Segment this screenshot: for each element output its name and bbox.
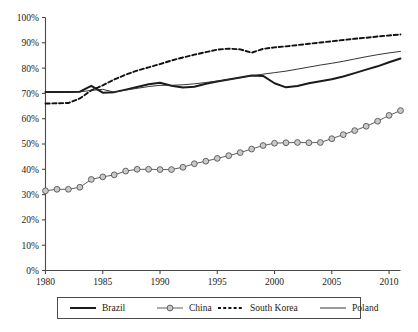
data-point-marker: [249, 146, 255, 152]
data-point-marker: [88, 177, 94, 183]
data-point-marker: [226, 153, 232, 159]
data-point-marker: [283, 140, 289, 146]
legend-label-poland: Poland: [352, 303, 379, 313]
data-point-marker: [329, 136, 335, 142]
data-point-marker: [272, 140, 278, 146]
data-point-marker: [134, 166, 140, 172]
legend-marker-china: [167, 305, 173, 311]
x-tick-label: 1980: [36, 277, 55, 287]
data-point-marker: [306, 140, 312, 146]
x-tick-label: 2005: [322, 277, 341, 287]
data-point-marker: [77, 184, 83, 190]
y-tick-label: 90%: [22, 38, 40, 48]
chart-container: 0%10%20%30%40%50%60%70%80%90%100% 198019…: [0, 0, 418, 332]
y-tick-label: 40%: [22, 165, 40, 175]
y-tick-label: 100%: [17, 13, 39, 23]
data-point-marker: [157, 167, 163, 173]
y-tick-label: 70%: [22, 89, 40, 99]
data-point-marker: [203, 158, 209, 164]
series-layer: [43, 34, 404, 193]
legend-label-south-korea: South Korea: [250, 303, 299, 313]
data-point-marker: [146, 166, 152, 172]
y-tick-label: 10%: [22, 241, 40, 251]
data-point-marker: [386, 113, 392, 119]
data-point-marker: [43, 188, 49, 194]
data-point-marker: [375, 118, 381, 124]
data-point-marker: [352, 128, 358, 134]
data-point-marker: [180, 164, 186, 170]
data-point-marker: [100, 174, 106, 180]
x-tick-label: 2000: [265, 277, 284, 287]
y-tick-label: 80%: [22, 64, 40, 74]
x-axis-ticks: 1980198519901995200020052010: [36, 271, 399, 288]
line-chart: 0%10%20%30%40%50%60%70%80%90%100% 198019…: [0, 0, 418, 332]
y-axis-ticks: 0%10%20%30%40%50%60%70%80%90%100%: [17, 13, 46, 276]
y-tick-label: 50%: [22, 139, 40, 149]
y-tick-label: 0%: [26, 266, 39, 276]
data-point-marker: [191, 161, 197, 167]
chart-legend: BrazilChinaSouth KoreaPoland: [58, 298, 379, 319]
data-point-marker: [237, 150, 243, 156]
y-tick-label: 30%: [22, 190, 40, 200]
legend-label-china: China: [189, 303, 212, 313]
data-point-marker: [317, 140, 323, 146]
x-tick-label: 2010: [380, 277, 399, 287]
data-point-marker: [66, 186, 72, 192]
legend-label-brazil: Brazil: [102, 303, 126, 313]
data-point-marker: [398, 108, 404, 114]
y-tick-label: 60%: [22, 114, 40, 124]
series-line-poland: [46, 51, 401, 92]
data-point-marker: [54, 186, 60, 192]
data-point-marker: [295, 140, 301, 146]
y-tick-label: 20%: [22, 215, 40, 225]
series-line-china: [46, 111, 401, 191]
data-point-marker: [363, 123, 369, 129]
data-point-marker: [169, 167, 175, 173]
x-tick-label: 1985: [93, 277, 112, 287]
data-point-marker: [260, 143, 266, 149]
data-point-marker: [111, 172, 117, 178]
x-tick-label: 1990: [151, 277, 170, 287]
data-point-marker: [214, 156, 220, 162]
series-line-south-korea: [46, 34, 401, 103]
data-point-marker: [340, 132, 346, 138]
data-point-marker: [123, 168, 129, 174]
x-tick-label: 1995: [208, 277, 227, 287]
